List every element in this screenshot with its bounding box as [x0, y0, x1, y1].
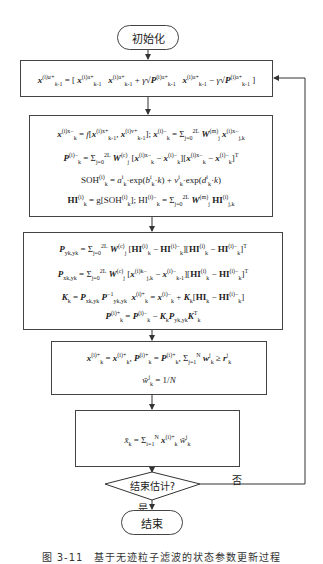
no-label: 否: [232, 472, 242, 487]
estimate-box: x̄k = Σi=1N x(i)+k w̄jk: [75, 410, 240, 467]
prediction-eq-2: P(i)−k = Σj=02L W(c)j [x(i)x−k − x(i)−k]…: [30, 152, 272, 165]
resample-box: x(i)+k = x(i)+k, P(i)+k = P(i)+k, Σj=1N …: [51, 341, 267, 395]
prediction-box: x(i)x−k = f[x(i)x+k-1, x(i)v+k-1]; x(i)−…: [29, 115, 273, 217]
decision-label: 结束估计?: [115, 478, 190, 493]
prediction-eq-3: SOH(i)k = aik·exp(bik·k) + vik·exp(dik·k…: [30, 174, 272, 187]
resample-eq-2: w̄jk = 1/N: [52, 374, 266, 387]
update-eq-1: Pyk,yk = Σj=02L W(c)j [HI(i)k − HI(i)−k]…: [24, 243, 282, 256]
end-label: 结束: [141, 515, 163, 531]
sigma-point-equation: x(i)a+k-1 = [ x(i)a+k-1 x(i)a+k-1 + γ√P(…: [21, 74, 272, 87]
update-eq-2: Pxk,yk = Σj=02L W(c)j [x(i)k−j,k − x(i)−…: [24, 268, 282, 281]
figure-caption: 图 3-11 基于无迹粒子滤波的状态参数更新过程: [0, 549, 323, 564]
start-terminal: 初始化: [117, 25, 179, 50]
prediction-eq-1: x(i)x−k = f[x(i)x+k-1, x(i)v+k-1]; x(i)−…: [30, 128, 272, 141]
start-label: 初始化: [132, 30, 165, 46]
end-terminal: 结束: [121, 510, 183, 535]
update-eq-3: Kk = Pxk,yk P−1yk,yk x(i)+k = x(i)−k + K…: [24, 291, 282, 304]
prediction-eq-4: HI(i)k = g[SOH(i)k]; HI(i)−k = Σj=02L W(…: [30, 194, 272, 207]
update-box: Pyk,yk = Σj=02L W(c)j [HI(i)k − HI(i)−k]…: [23, 232, 283, 330]
resample-eq-1: x(i)+k = x(i)+k, P(i)+k = P(i)+k, Σj=1N …: [52, 352, 266, 365]
update-eq-4: P(i)+k = P(i)−k − KkPyk,ykKTk: [24, 310, 282, 323]
sigma-point-box: x(i)a+k-1 = [ x(i)a+k-1 x(i)a+k-1 + γ√P(…: [20, 60, 273, 97]
estimate-eq: x̄k = Σi=1N x(i)+k w̄jk: [76, 434, 239, 447]
